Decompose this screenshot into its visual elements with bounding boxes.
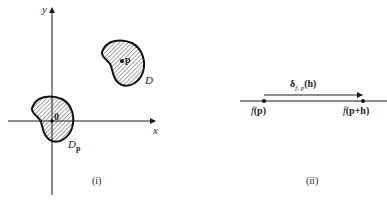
region-d [102, 41, 144, 86]
point-p-dot [120, 59, 124, 63]
x-axis-label: x [153, 125, 158, 136]
region-dp-label: Dp [68, 139, 80, 153]
region-dp [32, 97, 73, 142]
region-dp-label-main: D [68, 138, 76, 150]
point-fph-dot [361, 99, 365, 103]
fph-label-arg: (p+h) [346, 105, 369, 116]
point-fp-dot [262, 99, 266, 103]
fph-label: f(p+h) [343, 106, 369, 116]
diagram-canvas [0, 0, 387, 205]
fp-label: f(p) [251, 106, 266, 116]
delta-subscript: f, p [295, 84, 304, 92]
delta-arrow-label: δf, p(h) [290, 79, 316, 92]
point-p-label: p [125, 55, 131, 65]
region-dp-label-subscript: p [76, 144, 80, 153]
delta-argument: (h) [304, 78, 316, 89]
caption-ii: (ii) [306, 176, 318, 186]
region-d-label: D [145, 75, 153, 86]
axes [8, 8, 155, 195]
origin-label: 0 [54, 112, 59, 122]
y-axis-label: y [42, 4, 47, 15]
fp-label-arg: (p) [254, 105, 266, 116]
caption-i: (i) [92, 176, 101, 186]
